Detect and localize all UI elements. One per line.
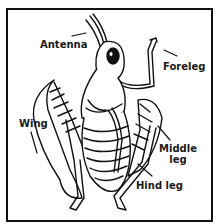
wing-leader-line [31, 132, 37, 153]
hind-leg-label: Hind leg [136, 180, 183, 191]
antenna-label: Antenna [40, 39, 87, 50]
antenna-shape [86, 14, 107, 46]
antenna-leader-line [72, 33, 86, 36]
middle-leg-label-line1: Middle [154, 143, 202, 154]
wing-label: Wing [19, 118, 48, 129]
foreleg-label: Foreleg [163, 61, 205, 72]
foreleg-leader-line [164, 50, 177, 56]
middle-leg-label-line2: leg [154, 154, 202, 165]
grasshopper-illustration [0, 0, 216, 224]
middle-leg-label: Middle leg [154, 143, 202, 165]
abdomen-shape [82, 112, 130, 191]
